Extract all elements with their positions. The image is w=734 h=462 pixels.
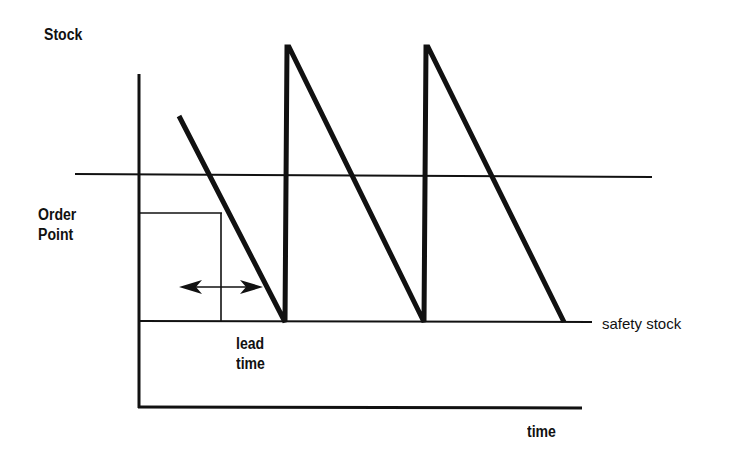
- lead-time-label-line1: lead: [236, 334, 265, 354]
- stock-level-sawtooth: [179, 47, 564, 322]
- order-point-label-line2: Point: [38, 225, 76, 245]
- x-axis-label: time: [527, 422, 556, 442]
- order-point-label: Order Point: [38, 205, 76, 245]
- max-stock-reference-line: [75, 174, 652, 177]
- lead-time-label-line2: time: [236, 354, 265, 374]
- safety-stock-label: safety stock: [602, 314, 681, 334]
- order-point-label-line1: Order: [38, 205, 76, 225]
- inventory-sawtooth-diagram: [0, 0, 734, 462]
- x-axis: [138, 407, 582, 408]
- y-axis-label: Stock: [44, 25, 82, 45]
- safety-stock-line: [139, 321, 592, 322]
- lead-time-label: lead time: [236, 334, 265, 374]
